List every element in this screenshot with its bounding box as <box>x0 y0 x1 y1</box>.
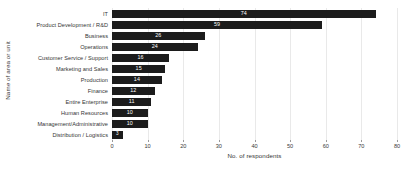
bar-value-label: 15 <box>136 66 142 71</box>
x-axis-tick-label: 70 <box>358 143 364 149</box>
y-axis-tick-label-text: Human Resources <box>61 110 108 116</box>
y-axis-tick-label: IT <box>103 8 108 19</box>
bar-value-label: 10 <box>127 110 133 115</box>
bar: 26 <box>112 32 205 40</box>
y-axis-tick-label-text: Entire Enterprise <box>65 99 108 105</box>
x-axis-tick-label: 60 <box>323 143 329 149</box>
y-axis-tick-label-text: Marketing and Sales <box>56 66 108 72</box>
bar: 59 <box>112 21 322 29</box>
x-axis-tick <box>255 140 256 142</box>
x-axis-tick <box>290 140 291 142</box>
y-axis-tick-labels: ITProduct Development / R&DBusinessOpera… <box>14 8 110 140</box>
bar-value-label: 74 <box>241 11 247 16</box>
bar: 74 <box>112 10 376 18</box>
bar-value-label: 11 <box>129 99 135 104</box>
y-axis-tick-label: Distribution / Logistics <box>52 129 108 140</box>
x-axis: No. of respondents 01020304050607080 <box>112 140 397 171</box>
bar: 16 <box>112 54 169 62</box>
gridline <box>361 8 362 140</box>
y-axis-tick-label-text: Management/Administrative <box>37 121 108 127</box>
bar: 11 <box>112 98 151 106</box>
bar-value-label: 59 <box>214 22 220 27</box>
bar: 3 <box>112 131 123 139</box>
x-axis-tick <box>397 140 398 142</box>
x-axis-tick <box>183 140 184 142</box>
x-axis-tick <box>326 140 327 142</box>
y-axis-tick-label-text: Business <box>85 33 108 39</box>
bar: 10 <box>112 109 148 117</box>
bar: 12 <box>112 87 155 95</box>
y-axis-title-text: Name of area or unit <box>4 41 11 99</box>
x-axis-tick-label: 0 <box>110 143 113 149</box>
y-axis-tick-label: Entire Enterprise <box>65 96 108 107</box>
plot-area: 74592624161514121110103 <box>112 8 397 140</box>
x-axis-tick <box>148 140 149 142</box>
y-axis-tick-label: Business <box>85 30 108 41</box>
x-axis-tick-label: 30 <box>216 143 222 149</box>
gridline <box>326 8 327 140</box>
gridline <box>397 8 398 140</box>
bar-value-label: 3 <box>116 132 119 137</box>
bar-value-label: 10 <box>127 121 133 126</box>
x-axis-tick <box>361 140 362 142</box>
y-axis-tick-label: Production <box>81 74 108 85</box>
y-axis-tick-label-text: Operations <box>80 44 108 50</box>
y-axis-tick-label-text: Distribution / Logistics <box>52 132 108 138</box>
y-axis-tick-label-text: Finance <box>88 88 108 94</box>
x-axis-tick-label: 10 <box>145 143 151 149</box>
x-axis-tick-label: 40 <box>251 143 257 149</box>
y-axis-tick-label-text: IT <box>103 11 108 17</box>
y-axis-tick-label-text: Product Development / R&D <box>36 22 108 28</box>
bar-value-label: 26 <box>155 33 161 38</box>
bar-chart: Name of area or unit ITProduct Developme… <box>0 0 408 171</box>
x-axis-tick-label: 50 <box>287 143 293 149</box>
bar: 24 <box>112 43 198 51</box>
x-axis-tick-label: 20 <box>180 143 186 149</box>
y-axis-tick-label-text: Production <box>81 77 108 83</box>
bar: 14 <box>112 76 162 84</box>
bar-value-label: 14 <box>134 77 140 82</box>
y-axis-title: Name of area or unit <box>0 0 14 140</box>
x-axis-tick <box>219 140 220 142</box>
bar-value-label: 24 <box>152 44 158 49</box>
y-axis-tick-label: Product Development / R&D <box>36 19 108 30</box>
x-axis-tick <box>112 140 113 142</box>
bar: 10 <box>112 120 148 128</box>
y-axis-tick-label: Management/Administrative <box>37 118 108 129</box>
y-axis-tick-label: Operations <box>80 41 108 52</box>
y-axis-tick-label: Customer Service / Support <box>38 52 108 63</box>
bar-value-label: 16 <box>137 55 143 60</box>
y-axis-tick-label: Finance <box>88 85 108 96</box>
x-axis-title: No. of respondents <box>112 152 397 159</box>
bar-value-label: 12 <box>130 88 136 93</box>
x-axis-tick-label: 80 <box>394 143 400 149</box>
y-axis-tick-label: Human Resources <box>61 107 108 118</box>
y-axis-tick-label: Marketing and Sales <box>56 63 108 74</box>
bar: 15 <box>112 65 165 73</box>
y-axis-tick-label-text: Customer Service / Support <box>38 55 108 61</box>
